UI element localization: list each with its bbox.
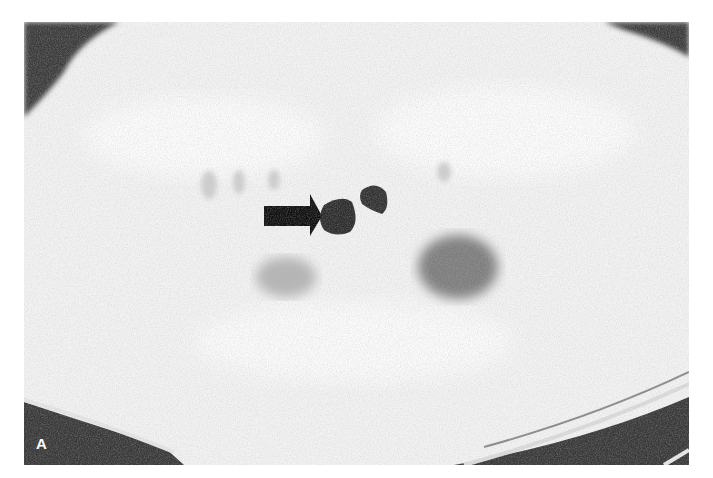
ct-scan-image: A	[24, 22, 689, 465]
panel-label: A	[36, 435, 47, 452]
ct-scan-graphic	[24, 22, 689, 465]
